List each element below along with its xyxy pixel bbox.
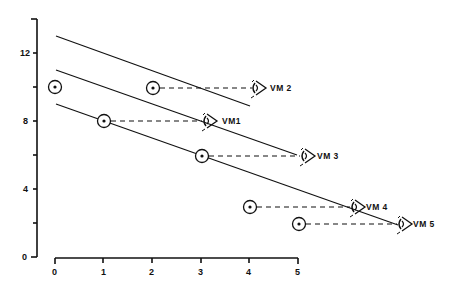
x-axis [55,258,298,264]
diagram-canvas: 12 8 4 0 0 1 2 3 4 5 [0,0,452,293]
eye-icon [251,80,266,98]
point-2-9 [147,82,160,95]
eye-icon [397,216,412,234]
viewpoint-vm2: VM 2 [251,80,292,98]
svg-text:VM 3: VM 3 [317,151,339,161]
x-tick-label-2: 2 [149,267,154,277]
line-top [56,36,250,106]
y-tick-label-4: 4 [23,184,28,194]
parallel-lines [56,36,398,225]
line-middle [56,70,297,155]
x-tick-label-1: 1 [101,267,106,277]
svg-text:VM 2: VM 2 [270,83,292,93]
point-0-10 [49,81,62,94]
svg-text:VM 4: VM 4 [366,202,388,212]
y-tick-label-12: 12 [20,48,30,58]
x-tick-label-0: 0 [52,267,57,277]
viewpoint-vm5: VM 5 [397,216,435,234]
y-axis [31,19,37,257]
point-5-2 [293,218,306,231]
point-3-6 [196,150,209,163]
x-tick-label-5: 5 [295,267,300,277]
point-4-3 [244,201,257,214]
eye-icon [300,148,315,166]
eye-icon [350,199,365,217]
x-tick-label-4: 4 [246,267,251,277]
svg-text:VM1: VM1 [222,116,241,126]
y-tick-label-8: 8 [23,116,28,126]
y-tick-label-0: 0 [22,252,27,262]
x-tick-label-3: 3 [198,267,203,277]
eye-icon [202,113,217,131]
svg-text:VM 5: VM 5 [413,219,435,229]
viewpoint-vm3: VM 3 [300,148,339,166]
point-1-8 [98,115,111,128]
